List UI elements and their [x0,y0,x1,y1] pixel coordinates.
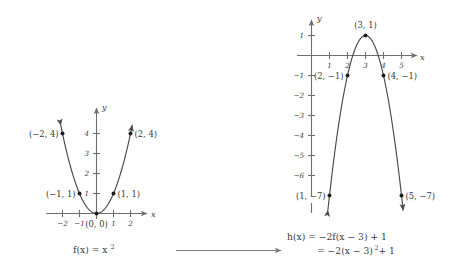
left-y-axis-label: y [101,102,107,112]
right-point-(3,1) [364,34,368,38]
right-caption-line1: h(x) = −2f(x − 3) + 1 [287,231,387,242]
right-point-(1,-7) [328,194,332,198]
left-point-label-(2,4): (2, 4) [135,129,158,139]
right-tick-label-y--5: −5 [293,151,304,160]
left-x-axis-label: x [151,209,156,219]
left-point-(-2,4) [61,132,65,136]
figure-root: −2 −1 1 2 1 2 3 4 x y (−2, [0,0,458,269]
right-tick-label-y--4: −4 [293,131,304,140]
right-point-label-(1,-7): (1, −7) [296,191,326,201]
right-tick-label-y-1: 1 [299,31,304,40]
right-tick-label-x-3: 3 [363,61,368,70]
right-x-axis-label: x [420,52,425,62]
right-tick-label-y--3: −3 [293,111,304,120]
left-tick-label-y-3: 3 [84,149,89,158]
right-tick-label-y--1: −1 [293,71,304,80]
right-caption-line2-prefix: = −2(x − 3) [317,245,373,256]
left-point-(0,0) [95,212,99,216]
left-plot-group: −2 −1 1 2 1 2 3 4 x y (−2, [29,102,157,255]
left-tick-label-y-4: 4 [83,129,89,138]
right-tick-label-y--6: −6 [293,171,304,180]
right-plot-caption: h(x) = −2f(x − 3) + 1 = −2(x − 3) 2 + 1 [287,231,395,256]
right-point-(5,-7) [400,194,404,198]
left-point-(1,1) [112,192,116,196]
left-tick-label-y-2: 2 [83,169,89,178]
left-point-label-(-2,4): (−2, 4) [29,129,59,139]
right-point-label-(5,-7): (5, −7) [406,191,436,201]
right-tick-label-x-1: 1 [327,61,332,70]
left-caption-exponent: 2 [111,243,115,251]
left-tick-label-x-2: 2 [127,219,133,228]
right-y-axis-label: y [316,13,322,23]
right-point-label-(4,-1): (4, −1) [388,71,418,81]
left-point-label-(-1,1): (−1, 1) [46,189,76,199]
right-point-(4,-1) [382,74,386,78]
right-point-label-(3,1): (3, 1) [354,20,377,30]
right-plot-group: 1 2 3 4 5 1 −1 −2 −3 −4 −5 −6 x y [287,13,435,256]
left-tick-label-x--1: −1 [74,219,85,228]
right-tick-label-x-5: 5 [399,61,404,70]
left-point-label-(0,0): (0, 0) [85,219,108,229]
left-tick-label-x-1: 1 [111,219,116,228]
left-tick-label-x--2: −2 [57,219,68,228]
right-caption-line2-suffix: + 1 [379,245,395,256]
right-tick-label-y--2: −2 [293,91,304,100]
left-point-(-1,1) [78,192,82,196]
right-point-(2,-1) [346,74,350,78]
left-point-(2,4) [129,132,133,136]
left-caption-main: f(x) = x [73,244,108,255]
left-tick-label-y-1: 1 [84,189,89,198]
left-plot-caption: f(x) = x 2 [73,243,115,255]
transformation-figure: −2 −1 1 2 1 2 3 4 x y (−2, [0,0,458,269]
left-point-label-(1,1): (1, 1) [118,189,141,199]
right-point-label-(2,-1): (2, −1) [314,71,344,81]
